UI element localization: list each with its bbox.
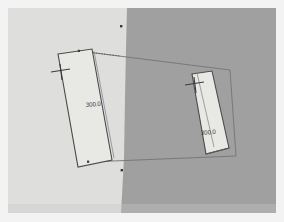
viewport-frame: 300.0 300.0 <box>0 0 284 222</box>
vertex-marker-panel-bottom-left[interactable] <box>87 161 89 163</box>
scene-graphics[interactable]: 300.0 300.0 <box>8 8 276 213</box>
vertex-marker-bottom[interactable] <box>121 169 123 171</box>
background-bottom-band <box>8 204 276 213</box>
vertex-marker-top[interactable] <box>120 25 122 27</box>
right-panel-dimension-label: 300.0 <box>200 128 216 136</box>
3d-viewport-canvas[interactable]: 300.0 300.0 <box>8 8 276 213</box>
left-panel-dimension-label: 300.0 <box>85 100 101 108</box>
vertex-marker-panel-top-left[interactable] <box>78 50 80 52</box>
